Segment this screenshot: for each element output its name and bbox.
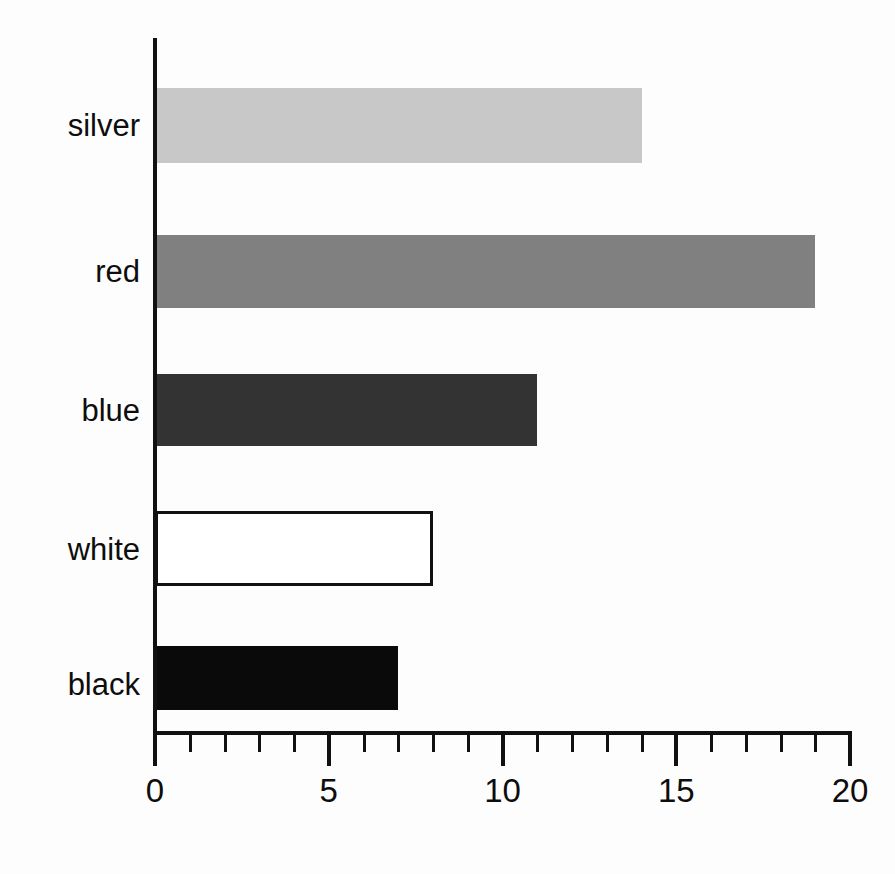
bar-silver	[155, 88, 642, 163]
category-label-white: white	[10, 534, 140, 565]
category-label-black-wrap: black	[0, 669, 140, 709]
x-tick-major	[674, 735, 678, 766]
category-label-silver-wrap: silver	[0, 110, 140, 150]
x-tick-major	[153, 735, 157, 766]
category-label-blue: blue	[10, 395, 140, 426]
x-tick-minor	[780, 735, 783, 752]
x-tick-minor	[814, 735, 817, 752]
bar-red	[155, 235, 815, 308]
x-tick-minor	[710, 735, 713, 752]
x-tick-minor	[258, 735, 261, 752]
x-tick-major	[501, 735, 505, 766]
x-tick-label: 15	[636, 774, 716, 807]
x-tick-minor	[363, 735, 366, 752]
bar-blue	[155, 374, 537, 446]
category-label-white-wrap: white	[0, 534, 140, 574]
x-tick-minor	[641, 735, 644, 752]
x-tick-minor	[224, 735, 227, 752]
x-tick-minor	[467, 735, 470, 752]
bar-white	[155, 511, 433, 586]
category-label-red-wrap: red	[0, 256, 140, 296]
x-tick-label: 0	[115, 774, 195, 807]
category-label-blue-wrap: blue	[0, 395, 140, 435]
category-label-black: black	[10, 669, 140, 700]
bar-chart: silver red blue white black 05101520	[0, 0, 895, 874]
x-tick-major	[848, 735, 852, 766]
x-tick-major	[327, 735, 331, 766]
category-label-red: red	[10, 256, 140, 287]
bar-black	[155, 646, 398, 710]
x-tick-minor	[397, 735, 400, 752]
x-tick-minor	[571, 735, 574, 752]
x-tick-minor	[606, 735, 609, 752]
x-tick-minor	[432, 735, 435, 752]
x-tick-minor	[189, 735, 192, 752]
x-tick-minor	[536, 735, 539, 752]
x-tick-label: 20	[810, 774, 890, 807]
y-axis-line	[153, 38, 157, 735]
x-tick-label: 5	[289, 774, 369, 807]
x-tick-minor	[293, 735, 296, 752]
x-tick-minor	[745, 735, 748, 752]
category-label-silver: silver	[10, 110, 140, 141]
x-tick-label: 10	[463, 774, 543, 807]
